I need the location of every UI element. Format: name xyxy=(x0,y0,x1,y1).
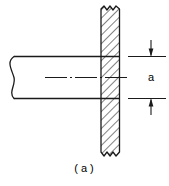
dimension-arrowhead-top xyxy=(149,49,154,57)
dimension-arrowhead-bottom xyxy=(149,99,154,107)
plate-section-hatching xyxy=(99,4,122,158)
figure-caption: ( a ) xyxy=(74,162,94,174)
technical-drawing-canvas: a ( a ) xyxy=(0,0,169,186)
bar-break-line xyxy=(10,57,14,99)
dimension-a-group: a xyxy=(128,40,166,115)
plate-part xyxy=(99,4,122,158)
engineering-drawing-figure: a ( a ) xyxy=(0,0,169,186)
dimension-a-label: a xyxy=(148,71,155,83)
